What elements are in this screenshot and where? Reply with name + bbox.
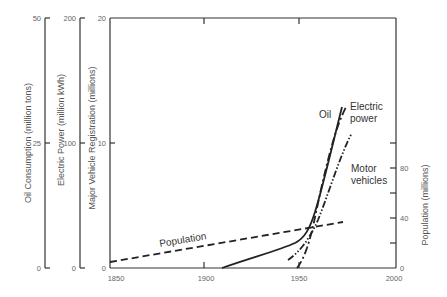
- population-tick-40: 40: [400, 214, 408, 223]
- population-tick-80: 80: [400, 164, 408, 173]
- chart-svg: 50 25 0 Oil Consumption (million tons) 2…: [0, 0, 447, 297]
- x-tick-2000: 2000: [386, 274, 403, 283]
- x-tick-1850: 1850: [108, 274, 125, 283]
- population-axis-title: Population (millions): [420, 164, 430, 245]
- vehicle-axis-title: Major Vehicle Registration (millions): [87, 66, 97, 209]
- electric-axis-title: Electric Power (million kWh): [56, 74, 66, 186]
- electric-power-label-line1: Electric: [350, 101, 383, 112]
- oil-tick-50: 50: [33, 14, 41, 23]
- vehicle-tick-10: 10: [98, 139, 106, 148]
- vehicle-tick-20: 20: [98, 14, 106, 23]
- electric-tick-200: 200: [63, 14, 76, 23]
- oil-tick-25: 25: [33, 139, 41, 148]
- motor-vehicles-label-line1: Motor: [351, 163, 377, 174]
- oil-axis-title: Oil Consumption (million tons): [23, 83, 33, 203]
- x-tick-1900: 1900: [198, 274, 215, 283]
- oil-tick-0: 0: [37, 264, 41, 273]
- electric-axis: [80, 18, 85, 268]
- x-tick-1950: 1950: [291, 274, 308, 283]
- electric-power-line: [297, 107, 346, 268]
- population-tick-0: 0: [400, 264, 404, 273]
- electric-tick-0: 0: [72, 264, 76, 273]
- vehicle-tick-0: 0: [102, 264, 106, 273]
- oil-axis: [45, 18, 50, 268]
- oil-line: [222, 107, 342, 268]
- plot-frame: [110, 18, 396, 268]
- electric-power-label-line2: power: [350, 113, 378, 124]
- motor-vehicles-label-line2: vehicles: [351, 175, 387, 186]
- oil-label: Oil: [319, 109, 331, 120]
